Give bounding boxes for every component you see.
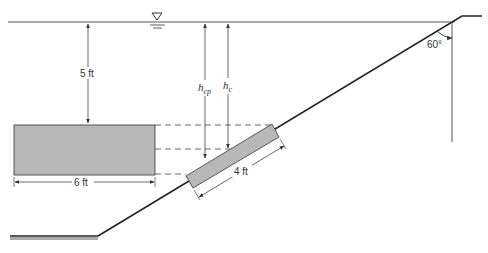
free-surface-icon [150,13,165,28]
width-label: 6 ft [74,177,88,188]
angle-label: 60° [427,39,442,50]
inclined-wall [98,16,482,236]
projected-area [14,125,155,175]
ground-hatch [10,237,98,240]
plate-length-label: 4 ft [234,166,248,177]
depth-label: 5 ft [80,68,94,79]
angle-arc [437,31,452,38]
hydrostatic-diagram: 60° 5 ft 6 ft hcp hc 4 ft [0,0,488,253]
inclined-plate [186,124,279,188]
